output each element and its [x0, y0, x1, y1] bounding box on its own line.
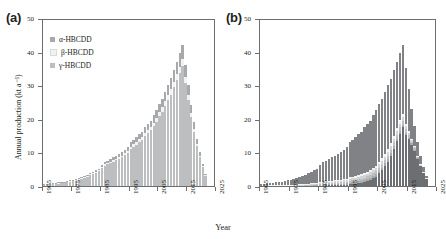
bar-segment [187, 85, 189, 95]
bar-segment [184, 77, 186, 83]
y-axis-tick-label: 20 [14, 116, 34, 124]
y-axis-tick [38, 120, 42, 121]
x-axis-tick [436, 187, 437, 191]
y-axis-tick-label: 0 [231, 183, 251, 191]
y-axis-tick-label: 30 [231, 82, 251, 90]
bar-segment [204, 176, 206, 186]
x-axis-tick-label: 2015 [410, 180, 418, 194]
x-axis-tick-label: 1995 [351, 180, 359, 194]
y-axis-tick [38, 153, 42, 154]
y-axis-tick-label: 20 [231, 116, 251, 124]
x-axis-tick-label: 2025 [439, 180, 446, 194]
bar-segment [199, 156, 201, 158]
y-axis-tick [255, 19, 259, 20]
bar-segment [196, 139, 198, 144]
x-axis-tick [289, 187, 290, 191]
bar-segment [425, 178, 427, 186]
bar-segment [190, 113, 192, 117]
bar-segment [204, 174, 206, 175]
bar [204, 174, 206, 186]
legend-label: β-HBCDD [61, 48, 94, 57]
y-axis-tick [255, 153, 259, 154]
x-axis-tick [259, 187, 260, 191]
bar-segment [419, 156, 421, 164]
y-axis-tick-label: 30 [14, 82, 34, 90]
y-axis-tick [38, 53, 42, 54]
bar-segment [202, 164, 204, 166]
x-axis-tick-label: 2005 [160, 180, 168, 194]
y-axis-tick [255, 86, 259, 87]
x-axis-tick-label: 1965 [45, 180, 53, 194]
x-axis-tick-label: 2015 [189, 180, 197, 194]
bar-segment [193, 129, 195, 132]
x-axis-tick-label: 1985 [321, 180, 329, 194]
legend-swatch-icon [50, 49, 57, 56]
bar-segment [190, 105, 192, 113]
x-axis-tick-label: 2005 [380, 180, 388, 194]
bar-segment [416, 142, 418, 155]
bar-segment [422, 167, 424, 172]
x-axis-tick-label: 1965 [262, 180, 270, 194]
bar-segment [199, 152, 201, 155]
panel-a: (a) Annual production (kt a⁻¹) 010203040… [0, 0, 223, 239]
bar-segment [202, 166, 204, 167]
x-axis-tick [129, 187, 130, 191]
x-axis-tick-label: 1995 [132, 180, 140, 194]
legend-swatch-icon [50, 63, 55, 68]
y-axis-tick-label: 50 [14, 15, 34, 23]
y-axis-tick [38, 86, 42, 87]
x-axis-tick [71, 187, 72, 191]
panel-a-legend-entry: β-HBCDD [50, 46, 94, 59]
panel-a-legend-entry: γ-HBCDD [50, 59, 94, 72]
x-axis-tick-label: 1985 [103, 180, 111, 194]
x-axis-tick [186, 187, 187, 191]
panel-b-plot-frame [259, 19, 436, 187]
y-axis-tick [255, 120, 259, 121]
panel-b-bars [260, 20, 435, 186]
figure-hbcdd-production: (a) Annual production (kt a⁻¹) 010203040… [0, 0, 446, 239]
panel-a-legend-entry: α-HBCDD [50, 33, 94, 46]
bar-segment [187, 95, 189, 100]
x-axis-tick [215, 187, 216, 191]
bar-segment [193, 122, 195, 128]
bar-segment [204, 175, 206, 176]
bar-segment [184, 65, 186, 77]
y-axis-tick-label: 40 [231, 49, 251, 57]
bar [425, 176, 427, 186]
legend-label: γ-HBCDD [59, 61, 91, 70]
y-axis-tick-label: 10 [14, 149, 34, 157]
legend-swatch-icon [50, 37, 55, 42]
x-axis-tick [407, 187, 408, 191]
panel-a-legend: α-HBCDDβ-HBCDDγ-HBCDD [50, 33, 94, 72]
x-axis-title: Year [0, 222, 446, 232]
x-axis-tick [377, 187, 378, 191]
x-axis-tick [318, 187, 319, 191]
y-axis-tick-label: 0 [14, 183, 34, 191]
x-axis-tick [348, 187, 349, 191]
y-axis-tick-label: 10 [231, 149, 251, 157]
y-axis-tick [255, 53, 259, 54]
x-axis-tick [42, 187, 43, 191]
bar-segment [196, 144, 198, 146]
x-axis-tick-label: 1975 [74, 180, 82, 194]
y-axis-tick [38, 19, 42, 20]
legend-label: α-HBCDD [59, 35, 92, 44]
x-axis-tick [157, 187, 158, 191]
panel-b: (b) 01020304050 196519751985199520052015… [223, 0, 446, 239]
y-axis-tick-label: 50 [231, 15, 251, 23]
x-axis-tick-label: 1975 [292, 180, 300, 194]
x-axis-tick [100, 187, 101, 191]
bar-segment [181, 45, 183, 59]
y-axis-tick-label: 40 [14, 49, 34, 57]
bar-segment [425, 176, 427, 178]
